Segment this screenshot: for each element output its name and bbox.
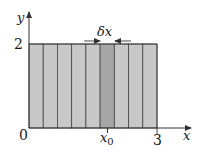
x0-label: x0 (100, 130, 114, 147)
y-axis-label: y (16, 10, 25, 25)
x-tick-label-3: 3 (153, 132, 162, 148)
strip (129, 44, 143, 128)
strip (72, 44, 86, 128)
x0-label-subscript: 0 (107, 136, 113, 147)
strip (114, 44, 128, 128)
x-axis-label: x (183, 128, 191, 143)
strips (29, 44, 157, 128)
origin-label: 0 (19, 127, 28, 143)
delta-x-label: δx (97, 24, 113, 39)
strip (57, 44, 71, 128)
strip (86, 44, 100, 128)
strip (143, 44, 157, 128)
highlighted-strip (100, 44, 114, 128)
strip (29, 44, 43, 128)
y-tick-label-2: 2 (14, 36, 23, 52)
strip (43, 44, 57, 128)
strip-diagram: δx y 2 0 x0 3 x (0, 0, 203, 152)
